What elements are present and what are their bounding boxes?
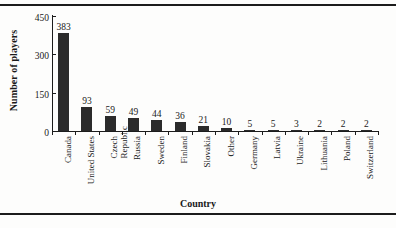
x-axis-title: Country — [0, 198, 396, 209]
bar-item[interactable]: 2 — [331, 16, 354, 131]
bar-item[interactable]: 36 — [168, 16, 191, 131]
x-axis-category-label: Switzerland — [366, 136, 376, 179]
x-axis-category[interactable]: United States — [75, 136, 98, 198]
x-axis-category[interactable]: Poland — [331, 136, 354, 198]
x-axis-tick-mark — [378, 131, 379, 135]
plot-area: 0150300450 38393594944362110553222 — [52, 16, 378, 131]
x-axis-category-label: Slovakia — [203, 136, 213, 168]
x-axis-category-label: Latvia — [273, 136, 283, 159]
bar-value-label: 5 — [271, 119, 276, 129]
y-axis-tick: 0 — [44, 122, 52, 140]
bar-item[interactable]: 3 — [285, 16, 308, 131]
x-axis-category-label: Sweden — [157, 136, 167, 165]
bar-rect — [268, 130, 279, 131]
x-axis-category-label: Poland — [343, 136, 353, 161]
x-axis-category[interactable]: CzechRepublic — [99, 136, 122, 198]
bar-item[interactable]: 49 — [122, 16, 145, 131]
bar-rect — [198, 126, 209, 131]
bar-rect — [128, 118, 139, 131]
y-axis-tick-label: 450 — [35, 13, 52, 23]
x-axis-tick-mark — [99, 131, 100, 135]
bar-value-label: 59 — [105, 105, 115, 115]
x-axis-category[interactable]: Sweden — [145, 136, 168, 198]
x-axis-category-label: Lithuania — [320, 136, 330, 171]
bar-item[interactable]: 5 — [262, 16, 285, 131]
x-axis-tick-mark — [308, 131, 309, 135]
x-axis-tick-mark — [168, 131, 169, 135]
bar-item[interactable]: 21 — [192, 16, 215, 131]
bar-rect — [244, 130, 255, 131]
bar-rect — [175, 122, 186, 131]
x-axis-category-label: Canada — [64, 136, 74, 163]
y-axis-tick: 150 — [35, 84, 52, 102]
bar-rect — [105, 116, 116, 131]
page-rule-bottom — [0, 213, 396, 215]
x-axis-tick-mark — [238, 131, 239, 135]
bar-item[interactable]: 93 — [75, 16, 98, 131]
chart-page: Number of players 0150300450 38393594944… — [0, 0, 396, 228]
x-axis-tick-mark — [52, 131, 53, 135]
bar-value-label: 383 — [57, 22, 71, 32]
bar-value-label: 3 — [294, 119, 299, 129]
page-rule-top — [0, 4, 396, 6]
x-axis-tick-mark — [285, 131, 286, 135]
bar-series: 38393594944362110553222 — [52, 16, 378, 131]
x-axis-category-label: Russia — [133, 136, 143, 160]
bar-value-label: 2 — [317, 119, 322, 129]
bar-value-label: 2 — [364, 119, 369, 129]
x-axis-category-label: CzechRepublic — [110, 136, 120, 159]
bar-value-label: 21 — [199, 115, 209, 125]
x-axis-category[interactable]: Other — [215, 136, 238, 198]
bar-rect — [221, 128, 232, 131]
bar-rect — [314, 130, 325, 131]
x-axis-category[interactable]: Russia — [122, 136, 145, 198]
bar-value-label: 44 — [152, 109, 162, 119]
x-axis-category[interactable]: Germany — [238, 136, 261, 198]
x-axis-tick-mark — [355, 131, 356, 135]
bar-chart-figure: Number of players 0150300450 38393594944… — [0, 8, 396, 211]
x-axis-tick-mark — [192, 131, 193, 135]
x-axis-category-label: United States — [87, 136, 97, 184]
bar-value-label: 93 — [82, 96, 92, 106]
bar-item[interactable]: 10 — [215, 16, 238, 131]
y-axis-tick-label: 0 — [44, 128, 52, 138]
x-axis-category[interactable]: Latvia — [262, 136, 285, 198]
bar-value-label: 10 — [222, 117, 232, 127]
y-axis-tick: 450 — [35, 7, 52, 25]
bar-rect — [58, 33, 69, 131]
bar-value-label: 36 — [175, 111, 185, 121]
bar-item[interactable]: 44 — [145, 16, 168, 131]
x-axis-category[interactable]: Switzerland — [355, 136, 378, 198]
bar-rect — [291, 130, 302, 131]
y-axis-tick-label: 300 — [35, 51, 52, 61]
x-axis-tick-mark — [215, 131, 216, 135]
x-axis-category[interactable]: Canada — [52, 136, 75, 198]
page-footer-caption — [0, 218, 396, 228]
x-axis-category-label: Ukraine — [296, 136, 306, 165]
y-axis-title: Number of players — [8, 11, 19, 131]
x-axis-category-label: Germany — [250, 136, 260, 170]
x-axis-category[interactable]: Lithuania — [308, 136, 331, 198]
bar-value-label: 5 — [248, 119, 253, 129]
bar-item[interactable]: 2 — [308, 16, 331, 131]
bar-rect — [361, 130, 372, 131]
x-axis-category[interactable]: Finland — [168, 136, 191, 198]
x-axis-category-label: Finland — [180, 136, 190, 164]
y-axis-tick: 300 — [35, 45, 52, 63]
bar-rect — [338, 130, 349, 131]
bar-value-label: 2 — [341, 119, 346, 129]
x-axis-tick-mark — [145, 131, 146, 135]
bar-item[interactable]: 59 — [99, 16, 122, 131]
x-axis-category[interactable]: Slovakia — [192, 136, 215, 198]
x-axis-tick-mark — [262, 131, 263, 135]
bar-rect — [151, 120, 162, 131]
x-axis-category-label: Other — [227, 136, 237, 157]
y-axis-tick-label: 150 — [35, 90, 52, 100]
bar-item[interactable]: 383 — [52, 16, 75, 131]
x-axis-category-labels: CanadaUnited StatesCzechRepublicRussiaSw… — [52, 136, 378, 198]
x-axis-tick-mark — [75, 131, 76, 135]
bar-item[interactable]: 5 — [238, 16, 261, 131]
x-axis-category[interactable]: Ukraine — [285, 136, 308, 198]
bar-item[interactable]: 2 — [355, 16, 378, 131]
x-axis-tick-mark — [331, 131, 332, 135]
